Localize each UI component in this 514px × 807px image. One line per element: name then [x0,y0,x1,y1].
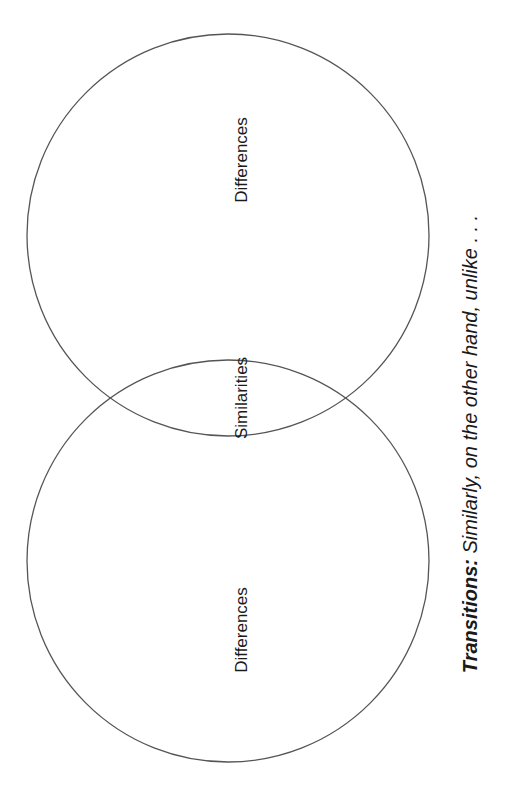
transitions-caption: Transitions: Similarly, on the other han… [459,215,482,673]
similarities-label: Similarities [232,357,252,439]
bottom-circle [27,360,429,762]
venn-diagram [0,0,514,807]
transitions-heading: Transitions: [459,559,481,673]
top-differences-label: Differences [232,117,252,203]
bottom-differences-label: Differences [232,587,252,673]
top-circle [27,34,429,436]
transitions-text: Similarly, on the other hand, unlike . .… [459,215,481,559]
